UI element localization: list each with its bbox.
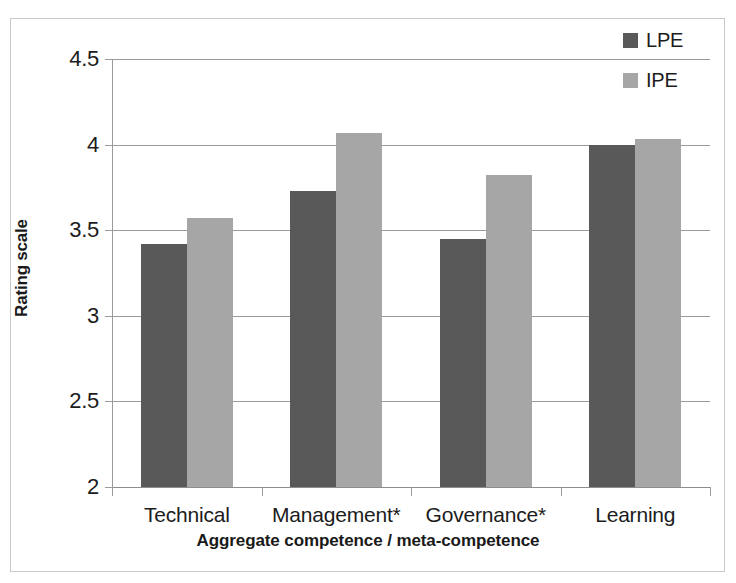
bar-ipe-technical[interactable] bbox=[187, 218, 233, 487]
gridline-4.5 bbox=[112, 59, 710, 60]
x-axis-title: Aggregate competence / meta-competence bbox=[0, 531, 736, 551]
chart-legend: LPE IPE bbox=[623, 30, 719, 110]
bar-ipe-management[interactable] bbox=[336, 133, 382, 487]
x-axis-label-learning: Learning bbox=[595, 503, 675, 527]
x-tick-mark-2 bbox=[561, 487, 562, 496]
legend-label-ipe: IPE bbox=[646, 70, 678, 90]
y-tick-mark-4 bbox=[105, 145, 112, 146]
legend-swatch-lpe bbox=[623, 33, 638, 48]
x-tick-mark-3 bbox=[710, 487, 711, 496]
y-tick-label-3: 3 bbox=[87, 303, 99, 329]
y-tick-label-4.5: 4.5 bbox=[69, 46, 99, 72]
y-tick-mark-4.5 bbox=[105, 59, 112, 60]
bar-ipe-governance[interactable] bbox=[486, 175, 532, 487]
y-tick-label-4: 4 bbox=[87, 132, 99, 158]
x-axis-label-technical: Technical bbox=[144, 503, 230, 527]
y-tick-label-3.5: 3.5 bbox=[69, 217, 99, 243]
bar-lpe-learning[interactable] bbox=[589, 145, 635, 487]
chart-figure: Rating scale 22.533.544.5TechnicalManage… bbox=[0, 0, 736, 583]
y-tick-mark-2.5 bbox=[105, 401, 112, 402]
y-tick-mark-3.5 bbox=[105, 230, 112, 231]
legend-label-lpe: LPE bbox=[646, 30, 683, 50]
legend-entry-lpe[interactable]: LPE bbox=[623, 30, 719, 50]
x-axis-label-governance: Governance* bbox=[426, 503, 546, 527]
y-tick-label-2: 2 bbox=[87, 474, 99, 500]
bar-lpe-management[interactable] bbox=[290, 191, 336, 487]
plot-area: 22.533.544.5TechnicalManagement*Governan… bbox=[112, 59, 710, 487]
y-axis-title: Rating scale bbox=[12, 208, 32, 328]
x-tick-mark-0 bbox=[262, 487, 263, 496]
y-tick-mark-2 bbox=[105, 487, 112, 488]
x-tick-mark-origin bbox=[112, 487, 113, 496]
y-tick-label-2.5: 2.5 bbox=[69, 388, 99, 414]
legend-swatch-ipe bbox=[623, 73, 638, 88]
bar-lpe-governance[interactable] bbox=[440, 239, 486, 487]
bar-ipe-learning[interactable] bbox=[635, 139, 681, 487]
bar-lpe-technical[interactable] bbox=[141, 244, 187, 487]
x-tick-mark-1 bbox=[411, 487, 412, 496]
legend-entry-ipe[interactable]: IPE bbox=[623, 70, 719, 90]
y-tick-mark-3 bbox=[105, 316, 112, 317]
x-axis-label-management: Management* bbox=[272, 503, 401, 527]
